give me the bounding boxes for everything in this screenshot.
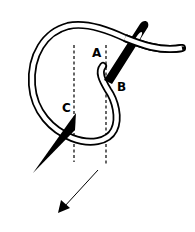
label-b: B: [117, 80, 126, 94]
direction-arrow: [58, 170, 98, 213]
stitch-diagram: A B C: [0, 0, 195, 232]
label-a: A: [92, 46, 102, 60]
lower-needle: [33, 113, 76, 173]
label-c: C: [62, 101, 71, 115]
thread-loop: [32, 25, 186, 142]
